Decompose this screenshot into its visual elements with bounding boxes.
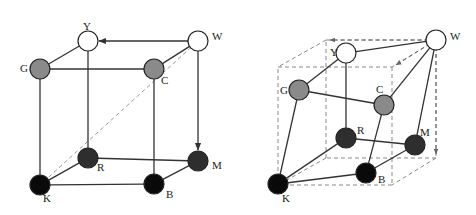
left-cube-edge-K-B	[50, 184, 144, 185]
right-cube-edge-R-K	[286, 144, 337, 179]
right-cube-node-r	[336, 128, 356, 148]
left-cube-label-c: C	[161, 74, 168, 86]
right-cube-label-c: C	[376, 83, 383, 95]
right-cube-label-w: W	[450, 30, 461, 42]
right-cube-label-y: Y	[330, 46, 338, 58]
right-cube-edge-W-M	[417, 50, 434, 135]
right-cube-edge-Y-W	[356, 41, 426, 51]
right-cube-edge-G-C	[309, 92, 374, 104]
left-cube-node-g	[30, 59, 50, 79]
color-cube-diagram: YWGCRMKB YWGCRMKB	[0, 0, 476, 215]
right-cube-edge-C-B	[369, 115, 382, 164]
right-cube-edge-C-W	[390, 48, 430, 97]
left-cube-node-m	[188, 151, 208, 171]
right-cube-label-m: M	[420, 126, 430, 138]
right-cube-node-g	[289, 80, 309, 100]
right-color-cube: YWGCRMKB	[268, 30, 461, 204]
right-cube-node-k	[268, 174, 288, 194]
left-cube-edge-Y-G	[49, 46, 80, 64]
left-cube-node-y	[78, 31, 98, 51]
right-cube-edge-G-K	[280, 100, 297, 174]
left-cube-label-y: Y	[83, 20, 91, 32]
right-cube-node-y	[336, 43, 356, 63]
left-color-cube: YWGCRMKB	[20, 20, 223, 204]
left-cube-edge-C-W	[162, 46, 189, 63]
right-cube-reference-box-edge	[278, 40, 326, 67]
right-cube-edge-B-M	[375, 150, 407, 168]
left-cube-node-w	[188, 31, 208, 51]
left-cube-gray-axis-diagonal	[47, 42, 196, 178]
right-cube-reference-box-edge	[392, 158, 436, 185]
right-cube-label-g: G	[280, 84, 288, 96]
left-cube-label-g: G	[20, 62, 28, 74]
left-cube-edge-R-M	[98, 158, 188, 160]
left-cube-label-w: W	[212, 30, 223, 42]
right-cube-edge-K-B	[288, 174, 356, 183]
left-cube-label-r: R	[97, 161, 105, 173]
right-cube-label-k: K	[282, 192, 290, 204]
right-cube-node-w	[426, 30, 446, 50]
diagram-canvas: YWGCRMKB YWGCRMKB	[0, 0, 476, 215]
left-cube-node-b	[144, 174, 164, 194]
right-cube-label-r: R	[357, 124, 365, 136]
right-cube-edge-Y-G	[307, 59, 338, 84]
left-cube-label-k: K	[43, 192, 51, 204]
left-cube-label-m: M	[212, 159, 222, 171]
right-cube-node-b	[356, 163, 376, 183]
right-cube-label-b: B	[378, 173, 385, 185]
right-cube-node-c	[374, 95, 394, 115]
left-cube-label-b: B	[166, 188, 173, 200]
left-cube-edge-R-K	[49, 163, 80, 180]
right-cube-node-m	[405, 135, 425, 155]
left-cube-edge-B-M	[163, 166, 189, 180]
left-cube-node-r	[78, 148, 98, 168]
right-cube-edge-R-M	[356, 139, 405, 144]
